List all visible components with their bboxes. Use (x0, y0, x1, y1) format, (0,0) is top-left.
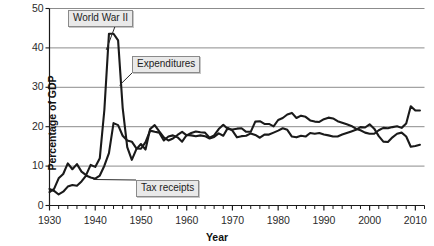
x-tick-label-1980: 1980 (258, 214, 298, 226)
annotation-leader-tax-receipts (93, 179, 136, 180)
annotation-leader-world-war-ii (106, 27, 115, 50)
x-axis-title: Year (0, 231, 434, 243)
x-tick-label-1940: 1940 (75, 214, 115, 226)
y-tick-label-30: 30 (14, 80, 44, 92)
annotation-expenditures: Expenditures (132, 56, 200, 73)
series-line-tax-receipts (50, 123, 420, 194)
y-tick-label-0: 0 (14, 199, 44, 211)
x-tick-label-1950: 1950 (121, 214, 161, 226)
y-tick-label-10: 10 (14, 159, 44, 171)
chart-plot-svg (0, 0, 434, 246)
x-tick-label-2010: 2010 (395, 214, 434, 226)
x-tick-label-1990: 1990 (304, 214, 344, 226)
y-tick-label-40: 40 (14, 41, 44, 53)
x-tick-label-1960: 1960 (167, 214, 207, 226)
series-line-expenditures (50, 34, 420, 192)
y-tick-label-50: 50 (14, 2, 44, 14)
annotation-tax-receipts: Tax receipts (136, 180, 199, 197)
annotation-world-war-ii: World War II (68, 10, 133, 27)
x-tick-label-1970: 1970 (212, 214, 252, 226)
y-axis-title: Percentage of GDP (46, 75, 58, 170)
chart-figure: Percentage of GDP Year 01020304050193019… (0, 0, 434, 246)
x-tick-label-2000: 2000 (350, 214, 390, 226)
y-tick-label-20: 20 (14, 120, 44, 132)
x-tick-label-1930: 1930 (30, 214, 70, 226)
